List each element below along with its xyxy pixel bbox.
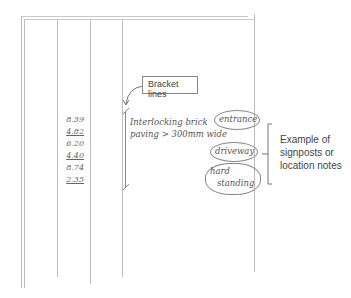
side-note: Example of signposts or location notes xyxy=(280,133,342,172)
side-note-line: signposts or xyxy=(280,146,342,159)
callout-label: Bracket lines xyxy=(148,79,197,99)
location-note: driveway xyxy=(215,146,254,156)
bracket-line xyxy=(125,111,126,187)
level-value: 4.82 xyxy=(52,127,84,136)
level-value: 8.74 xyxy=(52,163,84,172)
location-note: entrance xyxy=(219,114,257,124)
location-note: standing xyxy=(217,178,254,188)
column-divider-1 xyxy=(57,19,58,277)
bracket-tick-icon xyxy=(121,182,131,192)
location-note: hard xyxy=(210,166,230,176)
column-divider-2 xyxy=(90,19,91,284)
side-note-line: location notes xyxy=(280,159,342,172)
side-note-line: Example of xyxy=(280,133,342,146)
left-border-inner xyxy=(24,19,25,288)
callout-box: Bracket lines xyxy=(142,76,198,94)
column-divider-3 xyxy=(122,19,123,277)
right-border xyxy=(254,14,255,272)
side-bracket-icon xyxy=(258,122,278,186)
level-value: 4.40 xyxy=(52,151,84,160)
level-value: 8.39 xyxy=(52,115,84,124)
level-value: 6.20 xyxy=(52,139,84,148)
top-border-inner xyxy=(24,19,254,20)
top-border-outer xyxy=(21,16,248,17)
description-line-1: Interlocking brick xyxy=(130,117,208,127)
left-border-outer xyxy=(21,16,22,288)
level-value: 2.35 xyxy=(52,175,84,184)
description-line-2: paving > 300mm wide xyxy=(130,129,227,139)
